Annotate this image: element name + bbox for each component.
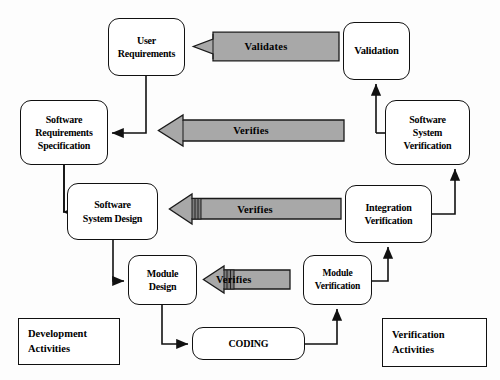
node-line: Verification (404, 139, 452, 152)
node-line: Integration (365, 201, 411, 214)
legend-development-activities: Development Activities (18, 318, 120, 365)
node-line: Software (94, 198, 131, 211)
node-coding: CODING (192, 327, 305, 360)
node-line: Requirements (35, 126, 92, 139)
node-line: Software (46, 113, 83, 126)
node-module-design: Module Design (128, 255, 197, 305)
node-line: System Design (83, 212, 142, 225)
node-line: Validation (354, 44, 398, 58)
node-line: Verification (315, 280, 360, 293)
legend-line: Activities (392, 343, 434, 357)
node-line: Module (147, 267, 179, 280)
node-line: Verification (365, 214, 413, 227)
node-line: Design (149, 280, 177, 293)
node-line: Requirements (118, 47, 175, 60)
legend-line: Verification (392, 328, 445, 342)
node-integration-verification: Integration Verification (345, 185, 432, 243)
node-user-requirements: User Requirements (108, 18, 185, 76)
node-line: Specification (38, 139, 90, 152)
node-software-system-verification: Software System Verification (385, 100, 470, 165)
verifies-arrow-module: Verifies (202, 265, 291, 294)
validates-arrow: Validates (192, 31, 340, 62)
v-model-diagram: User Requirements Software Requirements … (0, 0, 500, 380)
legend-line: Development (28, 327, 87, 341)
node-line: User (137, 34, 156, 47)
node-line: System (413, 126, 442, 139)
node-line: Module (323, 267, 353, 280)
node-validation: Validation (343, 22, 410, 80)
node-line: CODING (229, 337, 269, 350)
verifies-arrow-design: Verifies (168, 193, 342, 225)
node-line: Software (409, 113, 446, 126)
node-module-verification: Module Verification (303, 255, 372, 305)
node-software-system-design: Software System Design (67, 183, 158, 240)
legend-verification-activities: Verification Activities (382, 318, 487, 367)
verifies-arrow-requirements: Verifies (157, 114, 345, 147)
node-software-requirements-specification: Software Requirements Specification (20, 100, 108, 165)
legend-line: Activities (28, 342, 70, 356)
